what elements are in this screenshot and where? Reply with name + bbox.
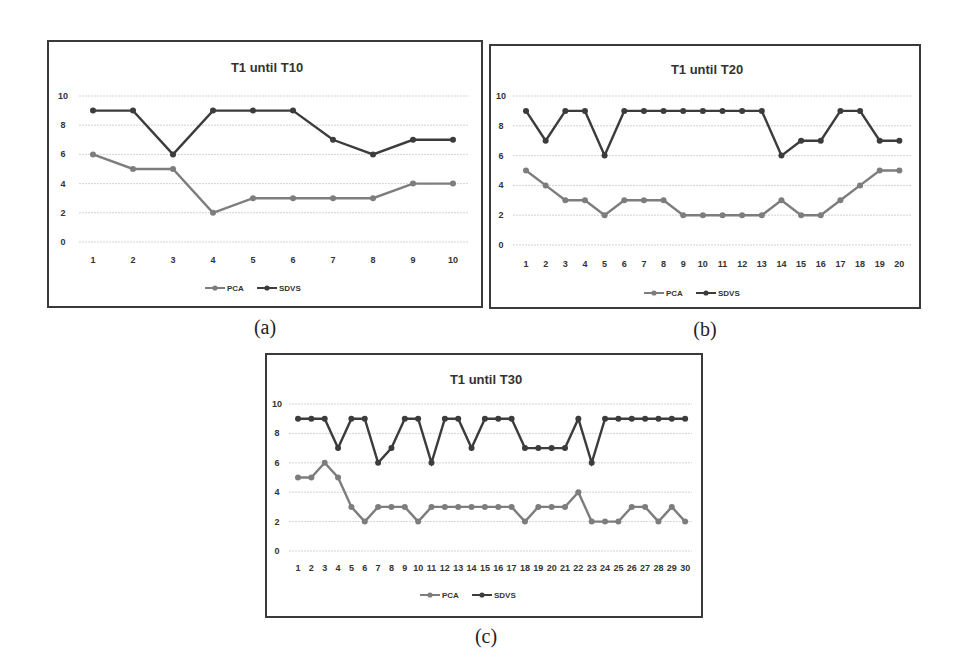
series-line <box>526 111 899 156</box>
data-point-marker <box>582 197 588 203</box>
legend-label: PCA <box>227 284 244 293</box>
data-point-marker <box>641 108 647 114</box>
chart-panel-a: T1 until T10024681012345678910PCASDVS <box>47 40 483 308</box>
x-tick-label: 11 <box>427 563 437 573</box>
x-tick-label: 9 <box>681 259 686 269</box>
y-tick-label: 10 <box>58 91 68 101</box>
x-tick-label: 14 <box>776 259 786 269</box>
legend-marker-icon <box>264 285 269 290</box>
x-tick-label: 13 <box>453 563 463 573</box>
data-point-marker <box>495 416 501 422</box>
x-tick-label: 5 <box>349 563 354 573</box>
series-sdvs <box>523 108 902 159</box>
data-point-marker <box>210 108 216 114</box>
data-point-marker <box>410 137 416 143</box>
x-tick-label: 7 <box>330 255 335 265</box>
data-point-marker <box>535 445 541 451</box>
data-point-marker <box>642 504 648 510</box>
y-tick-label: 10 <box>272 399 282 409</box>
x-tick-label: 17 <box>507 563 517 573</box>
data-point-marker <box>896 138 902 144</box>
data-point-marker <box>322 416 328 422</box>
y-tick-label: 6 <box>274 458 279 468</box>
data-point-marker <box>450 137 456 143</box>
x-tick-label: 4 <box>582 259 587 269</box>
y-tick-label: 8 <box>498 121 503 131</box>
data-point-marker <box>290 195 296 201</box>
data-point-marker <box>700 108 706 114</box>
x-tick-label: 5 <box>250 255 255 265</box>
x-tick-label: 3 <box>563 259 568 269</box>
x-tick-label: 29 <box>667 563 677 573</box>
x-tick-label: 2 <box>543 259 548 269</box>
data-point-marker <box>778 153 784 159</box>
x-tick-label: 12 <box>737 259 747 269</box>
data-point-marker <box>370 151 376 157</box>
y-tick-label: 4 <box>498 180 503 190</box>
x-tick-label: 21 <box>560 563 570 573</box>
series-pca <box>523 168 902 219</box>
y-tick-label: 8 <box>274 428 279 438</box>
data-point-marker <box>522 445 528 451</box>
data-point-marker <box>482 416 488 422</box>
data-point-marker <box>562 445 568 451</box>
data-point-marker <box>877 168 883 174</box>
x-tick-label: 20 <box>547 563 557 573</box>
x-tick-label: 27 <box>640 563 650 573</box>
x-tick-label: 3 <box>170 255 175 265</box>
data-point-marker <box>335 475 341 481</box>
x-tick-label: 8 <box>661 259 666 269</box>
x-tick-label: 7 <box>376 563 381 573</box>
x-tick-label: 4 <box>336 563 341 573</box>
data-point-marker <box>629 504 635 510</box>
data-point-marker <box>442 504 448 510</box>
x-tick-label: 6 <box>622 259 627 269</box>
data-point-marker <box>682 519 688 525</box>
data-point-marker <box>562 197 568 203</box>
chart-title: T1 until T20 <box>671 62 743 77</box>
legend-label: SDVS <box>279 284 301 293</box>
data-point-marker <box>641 197 647 203</box>
data-point-marker <box>818 138 824 144</box>
y-tick-label: 2 <box>274 517 279 527</box>
legend-marker-icon <box>427 592 432 597</box>
data-point-marker <box>442 416 448 422</box>
data-point-marker <box>130 166 136 172</box>
chart-title: T1 until T10 <box>231 60 303 75</box>
data-point-marker <box>857 182 863 188</box>
data-point-marker <box>837 197 843 203</box>
x-tick-label: 16 <box>816 259 826 269</box>
legend-marker-icon <box>651 290 656 295</box>
data-point-marker <box>523 108 529 114</box>
data-point-marker <box>90 151 96 157</box>
data-point-marker <box>375 460 381 466</box>
chart-panel-b: T1 until T200246810123456789101112131415… <box>489 44 921 309</box>
x-tick-label: 9 <box>410 255 415 265</box>
y-tick-label: 0 <box>498 240 503 250</box>
data-point-marker <box>90 108 96 114</box>
chart-panel-c: T1 until T300246810123456789101112131415… <box>265 353 703 618</box>
data-point-marker <box>549 445 555 451</box>
x-tick-label: 19 <box>533 563 543 573</box>
data-point-marker <box>362 416 368 422</box>
chart-legend: PCASDVS <box>205 284 301 293</box>
data-point-marker <box>621 197 627 203</box>
y-tick-label: 6 <box>60 149 65 159</box>
x-tick-label: 18 <box>855 259 865 269</box>
data-point-marker <box>602 416 608 422</box>
data-point-marker <box>700 212 706 218</box>
x-tick-label: 20 <box>894 259 904 269</box>
y-tick-label: 2 <box>498 210 503 220</box>
data-point-marker <box>602 153 608 159</box>
data-point-marker <box>522 519 528 525</box>
chart-legend: PCASDVS <box>420 591 516 600</box>
data-point-marker <box>582 108 588 114</box>
legend-marker-icon <box>703 290 708 295</box>
data-point-marker <box>322 460 328 466</box>
data-point-marker <box>680 108 686 114</box>
y-tick-label: 4 <box>60 179 65 189</box>
y-tick-label: 2 <box>60 208 65 218</box>
data-point-marker <box>562 504 568 510</box>
data-point-marker <box>896 168 902 174</box>
chart-c-svg: T1 until T300246810123456789101112131415… <box>267 355 705 620</box>
